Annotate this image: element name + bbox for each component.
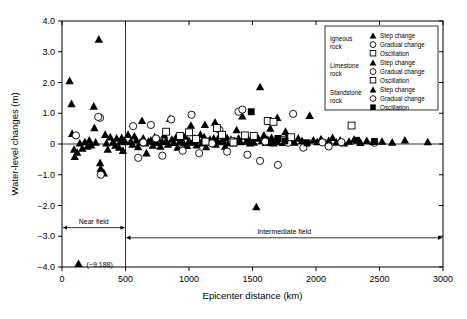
- data-point: [371, 138, 378, 145]
- data-point: [90, 124, 98, 132]
- x-tick-label: 1000: [179, 274, 199, 284]
- near-field-arrowhead: [63, 225, 67, 229]
- legend-group-label: Standstone: [330, 89, 362, 96]
- legend-entry-label: Step change: [380, 59, 416, 67]
- data-point: [147, 121, 154, 128]
- data-point: [163, 128, 170, 135]
- data-point: [223, 148, 230, 155]
- near-field-label: Near field: [79, 218, 109, 225]
- data-point: [140, 139, 147, 146]
- data-point: [401, 136, 409, 144]
- legend-entry-label: Step change: [380, 86, 416, 94]
- data-point: [424, 138, 432, 146]
- data-point: [95, 113, 102, 120]
- data-point: [67, 100, 75, 108]
- intermediate-field-arrowhead: [127, 236, 131, 240]
- data-point: [202, 138, 209, 145]
- y-tick-label: 4.0: [42, 16, 55, 26]
- legend-entry-label: Step change: [380, 32, 416, 40]
- legend-marker: [370, 42, 376, 48]
- legend-entry-label: Oscillation: [380, 104, 410, 111]
- data-point: [135, 154, 142, 161]
- data-point: [378, 137, 386, 145]
- x-axis-title: Epicenter distance (km): [203, 290, 303, 301]
- near-field-arrowhead: [121, 225, 125, 229]
- x-tick-label: 0: [59, 274, 64, 284]
- data-point: [97, 171, 104, 178]
- data-point: [193, 136, 200, 143]
- legend-entry-label: Oscillation: [380, 50, 410, 57]
- data-point: [256, 83, 264, 91]
- data-point: [288, 134, 295, 141]
- data-point: [250, 133, 257, 140]
- data-point: [270, 118, 277, 125]
- data-point: [281, 137, 288, 144]
- legend-entry-label: Gradual change: [380, 68, 425, 76]
- data-point: [290, 110, 297, 117]
- data-point: [248, 108, 255, 115]
- x-tick-label: 500: [118, 274, 133, 284]
- annotation-label: (−9.188): [87, 261, 113, 269]
- legend-marker: [370, 96, 376, 102]
- y-tick-label: −4.0: [37, 262, 55, 272]
- data-point: [219, 131, 226, 138]
- data-point: [241, 132, 248, 139]
- data-point: [325, 143, 332, 150]
- legend-marker: [370, 69, 376, 75]
- y-tick-label: −3.0: [37, 231, 55, 241]
- x-tick-label: 2500: [369, 274, 389, 284]
- data-point: [168, 116, 175, 123]
- figure-container: 050010001500200025003000Epicenter distan…: [0, 0, 467, 319]
- data-point: [348, 122, 355, 129]
- data-point: [257, 157, 264, 164]
- data-point: [230, 139, 237, 146]
- y-tick-label: 1.0: [42, 108, 55, 118]
- legend-group-label-2: rock: [330, 70, 343, 77]
- legend-marker: [370, 77, 376, 83]
- data-point: [388, 138, 396, 146]
- data-point: [187, 121, 195, 129]
- data-point: [363, 137, 371, 145]
- scatter-chart: 050010001500200025003000Epicenter distan…: [0, 0, 467, 319]
- y-tick-label: 3.0: [42, 47, 55, 57]
- data-point: [305, 111, 313, 119]
- data-point: [90, 102, 98, 110]
- data-point: [353, 137, 360, 144]
- x-tick-label: 3000: [433, 274, 453, 284]
- x-tick-label: 2000: [306, 274, 326, 284]
- legend-marker: [370, 50, 376, 56]
- data-point: [72, 132, 79, 139]
- data-point: [196, 150, 203, 157]
- y-tick-label: −2.0: [37, 201, 55, 211]
- annotation-marker: [74, 260, 82, 268]
- data-point: [268, 139, 275, 146]
- data-point: [152, 135, 159, 142]
- data-point: [96, 159, 104, 167]
- data-point: [142, 149, 150, 157]
- legend-group-label-2: rock: [330, 97, 343, 104]
- legend-marker: [370, 104, 376, 110]
- data-point: [177, 133, 184, 140]
- data-point: [130, 123, 137, 130]
- data-point: [186, 129, 193, 136]
- y-axis-title: Water-level changes (m): [9, 92, 20, 195]
- data-point: [319, 139, 326, 146]
- data-point: [304, 139, 311, 146]
- data-point: [338, 139, 345, 146]
- data-point: [232, 126, 240, 134]
- intermediate-field-label: Intermediate field: [257, 228, 311, 235]
- data-point: [274, 135, 281, 142]
- data-point: [201, 121, 209, 129]
- legend-entry-label: Oscillation: [380, 77, 410, 84]
- data-point: [65, 77, 73, 85]
- data-point: [188, 111, 195, 118]
- y-tick-label: 2.0: [42, 78, 55, 88]
- data-point: [213, 125, 220, 132]
- data-point: [262, 138, 269, 145]
- y-tick-label: 0: [50, 139, 55, 149]
- y-tick-label: −1.0: [37, 170, 55, 180]
- legend-group-label-2: rock: [330, 43, 343, 50]
- data-point: [179, 147, 186, 154]
- data-point: [85, 136, 93, 144]
- data-point: [244, 151, 251, 158]
